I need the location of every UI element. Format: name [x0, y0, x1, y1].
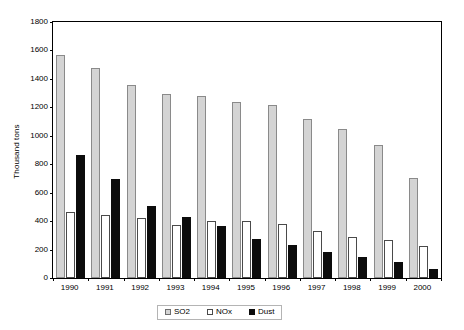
bar-group	[53, 22, 88, 278]
bar-group	[229, 22, 264, 278]
x-axis-tick-mark	[300, 278, 301, 281]
bar-dust-1994	[217, 226, 226, 278]
bar-so2-2000	[409, 178, 418, 278]
bar-so2-1990	[56, 55, 65, 278]
x-axis-tick-mark	[124, 278, 125, 281]
y-axis-title: Thousand tons	[12, 87, 21, 217]
bar-so2-1999	[374, 145, 383, 278]
x-axis-tick-label: 1997	[299, 283, 334, 292]
bar-so2-1996	[268, 105, 277, 278]
bar-nox-1993	[172, 225, 181, 278]
legend-item-nox[interactable]: NOx	[207, 308, 232, 316]
x-axis-tick-label: 1996	[264, 283, 299, 292]
bar-dust-2000	[429, 269, 438, 278]
x-axis-tick-label: 1999	[369, 283, 404, 292]
bar-nox-1991	[101, 215, 110, 278]
legend-swatch-nox-icon	[207, 309, 213, 315]
bar-chart: Thousand tons 02004006008001000120014001…	[0, 0, 464, 330]
x-axis-tick-mark	[194, 278, 195, 281]
x-axis-tick-mark	[88, 278, 89, 281]
bar-group	[406, 22, 441, 278]
bar-so2-1993	[162, 94, 171, 278]
legend-label: SO2	[174, 308, 190, 316]
x-axis-tick-mark	[265, 278, 266, 281]
bar-group	[159, 22, 194, 278]
bar-nox-1992	[137, 218, 146, 278]
x-axis-tick-label: 1993	[158, 283, 193, 292]
x-axis-tick-mark	[370, 278, 371, 281]
x-axis-tick-label: 1994	[193, 283, 228, 292]
legend-label: NOx	[216, 308, 232, 316]
bar-dust-1990	[76, 155, 85, 278]
x-axis-tick-label: 1998	[334, 283, 369, 292]
bar-dust-1995	[252, 239, 261, 278]
legend-item-so2[interactable]: SO2	[165, 308, 190, 316]
bar-group	[335, 22, 370, 278]
legend-label: Dust	[258, 308, 274, 316]
x-axis-tick-label: 1995	[228, 283, 263, 292]
bar-nox-1995	[242, 221, 251, 278]
x-axis-tick-label: 1990	[52, 283, 87, 292]
bar-dust-1992	[147, 206, 156, 278]
x-axis-tick-mark	[441, 278, 442, 281]
bar-dust-1991	[111, 179, 120, 278]
x-axis-tick-mark	[406, 278, 407, 281]
bar-dust-1993	[182, 217, 191, 278]
bars-layer	[53, 22, 441, 278]
legend-item-dust[interactable]: Dust	[249, 308, 274, 316]
chart-legend: SO2NOxDust	[157, 305, 282, 320]
bar-group	[194, 22, 229, 278]
bar-nox-1998	[348, 237, 357, 278]
bar-dust-1996	[288, 245, 297, 278]
bar-dust-1997	[323, 252, 332, 278]
bar-nox-1990	[66, 212, 75, 278]
bar-dust-1998	[358, 257, 367, 278]
bar-so2-1995	[232, 102, 241, 278]
x-axis-tick-mark	[53, 278, 54, 281]
bar-nox-1999	[384, 240, 393, 278]
bar-group	[88, 22, 123, 278]
bar-dust-1999	[394, 262, 403, 278]
plot-area: 020040060080010001200140016001800	[52, 21, 442, 279]
bar-group	[265, 22, 300, 278]
bar-nox-2000	[419, 246, 428, 278]
bar-nox-1994	[207, 221, 216, 278]
bar-nox-1996	[278, 224, 287, 278]
x-axis-tick-mark	[335, 278, 336, 281]
legend-swatch-dust-icon	[249, 309, 255, 315]
legend-swatch-so2-icon	[165, 309, 171, 315]
bar-group	[370, 22, 405, 278]
x-axis-tick-mark	[159, 278, 160, 281]
bar-so2-1997	[303, 119, 312, 278]
x-axis-tick-label: 1992	[123, 283, 158, 292]
bar-group	[300, 22, 335, 278]
bar-so2-1998	[338, 129, 347, 278]
bar-so2-1992	[127, 85, 136, 278]
x-axis-tick-label: 1991	[87, 283, 122, 292]
bar-group	[124, 22, 159, 278]
bar-so2-1991	[91, 68, 100, 278]
x-axis-tick-mark	[229, 278, 230, 281]
bar-nox-1997	[313, 231, 322, 278]
bar-so2-1994	[197, 96, 206, 278]
x-axis-tick-label: 2000	[405, 283, 440, 292]
